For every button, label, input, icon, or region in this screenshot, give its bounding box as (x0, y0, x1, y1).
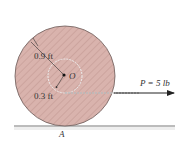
center-label: O (69, 71, 76, 81)
center-point (62, 73, 65, 76)
spool-diagram: 0.9 ft 0.3 ft O A P = 5 lb (0, 0, 187, 144)
inner-radius-label: 0.3 ft (34, 91, 53, 101)
ground-shadow (14, 127, 175, 130)
contact-point-label: A (58, 129, 65, 139)
force-label: P = 5 lb (139, 78, 170, 88)
outer-radius-label: 0.9 ft (34, 51, 53, 61)
